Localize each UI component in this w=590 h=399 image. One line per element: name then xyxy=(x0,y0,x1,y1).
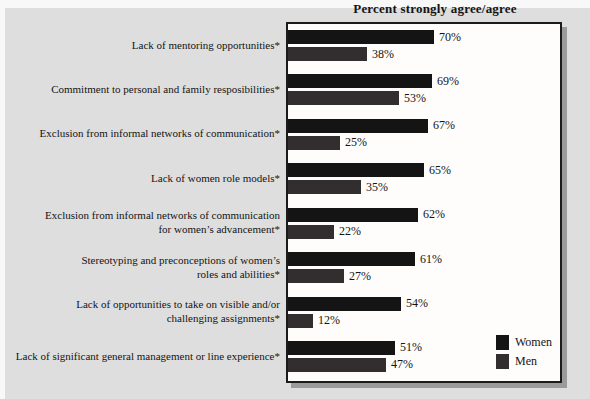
bar-value-label: 38% xyxy=(372,47,394,62)
bar-value-label: 47% xyxy=(391,357,413,372)
bar-men xyxy=(288,314,313,328)
bar-value-label: 53% xyxy=(404,91,426,106)
bar-value-label: 35% xyxy=(366,180,388,195)
bar-value-label: 12% xyxy=(318,313,340,328)
bar-group: Stereotyping and preconceptions of women… xyxy=(0,252,562,283)
legend-item-women: Women xyxy=(496,334,552,350)
category-label: Lack of women role models* xyxy=(0,172,288,186)
bar-women xyxy=(288,74,432,88)
bar-women xyxy=(288,163,424,177)
bar-group: Lack of mentoring opportunities* 70% 38% xyxy=(0,30,562,61)
bar-women xyxy=(288,297,401,311)
bar-value-label: 25% xyxy=(345,135,367,150)
bar-men xyxy=(288,47,367,61)
category-label: Exclusion from informal networks of comm… xyxy=(0,209,288,237)
bar-value-label: 70% xyxy=(439,30,461,45)
bar-value-label: 61% xyxy=(420,252,442,267)
bar-women xyxy=(288,252,415,266)
bar-pair: 65% 35% xyxy=(288,163,562,194)
bar-value-label: 54% xyxy=(406,296,428,311)
bar-men xyxy=(288,358,386,372)
bar-value-label: 69% xyxy=(437,74,459,89)
bar-men xyxy=(288,269,344,283)
category-label: Exclusion from informal networks of comm… xyxy=(0,127,288,141)
bar-men xyxy=(288,136,340,150)
bar-women xyxy=(288,341,395,355)
bar-pair: 69% 53% xyxy=(288,74,562,105)
bar-women xyxy=(288,30,434,44)
bar-value-label: 22% xyxy=(339,224,361,239)
bar-pair: 54% 12% xyxy=(288,297,562,328)
bar-value-label: 27% xyxy=(349,269,371,284)
bar-value-label: 51% xyxy=(400,340,422,355)
bar-rows: Lack of mentoring opportunities* 70% 38%… xyxy=(0,22,562,383)
bar-pair: 67% 25% xyxy=(288,119,562,150)
bar-pair: 62% 22% xyxy=(288,208,562,239)
category-label: Lack of opportunities to take on visible… xyxy=(0,298,288,326)
bar-men xyxy=(288,225,334,239)
bar-value-label: 62% xyxy=(423,207,445,222)
bar-pair: 61% 27% xyxy=(288,252,562,283)
bar-group: Exclusion from informal networks of comm… xyxy=(0,119,562,150)
bar-group: Lack of significant general management o… xyxy=(0,341,562,372)
legend-swatch-men xyxy=(496,354,509,369)
category-label: Stereotyping and preconceptions of women… xyxy=(0,254,288,282)
bar-women xyxy=(288,119,428,133)
legend-label-men: Men xyxy=(515,354,537,369)
bar-group: Lack of women role models* 65% 35% xyxy=(0,163,562,194)
bar-group: Lack of opportunities to take on visible… xyxy=(0,297,562,328)
bar-pair: 70% 38% xyxy=(288,30,562,61)
bar-value-label: 65% xyxy=(429,163,451,178)
bar-women xyxy=(288,208,418,222)
category-label: Lack of significant general management o… xyxy=(0,350,288,364)
legend-item-men: Men xyxy=(496,353,552,369)
chart-title: Percent strongly agree/agree xyxy=(306,1,564,17)
bar-group: Exclusion from informal networks of comm… xyxy=(0,208,562,239)
bar-group: Commitment to personal and family respos… xyxy=(0,74,562,105)
bar-men xyxy=(288,180,361,194)
bar-men xyxy=(288,91,399,105)
category-label: Lack of mentoring opportunities* xyxy=(0,39,288,53)
category-label: Commitment to personal and family respos… xyxy=(0,83,288,97)
legend: Women Men xyxy=(496,334,552,369)
legend-label-women: Women xyxy=(515,335,552,350)
bar-value-label: 67% xyxy=(433,118,455,133)
legend-swatch-women xyxy=(496,335,509,350)
